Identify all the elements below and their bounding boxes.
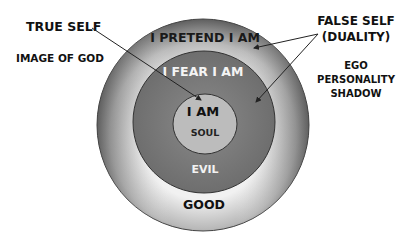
diagram-canvas: I PRETEND I AM I FEAR I AM I AM SOUL EVI… — [0, 0, 410, 246]
shadow-label: SHADOW — [330, 88, 381, 99]
true-self-label: TRUE SELF — [26, 19, 101, 34]
personality-label: PERSONALITY — [317, 74, 396, 85]
outer-ring-label: I PRETEND I AM — [150, 30, 260, 45]
evil-label: EVIL — [191, 163, 218, 176]
middle-ring-label: I FEAR I AM — [163, 64, 244, 79]
inner-circle-label: I AM — [187, 104, 219, 119]
false-self-label: FALSE SELF — [317, 14, 394, 28]
duality-label: (DUALITY) — [322, 30, 391, 44]
good-label: GOOD — [183, 197, 225, 212]
inner-circle — [173, 94, 237, 154]
ego-label: EGO — [344, 60, 368, 71]
soul-label: SOUL — [191, 127, 220, 138]
image-of-god-label: IMAGE OF GOD — [16, 52, 104, 64]
